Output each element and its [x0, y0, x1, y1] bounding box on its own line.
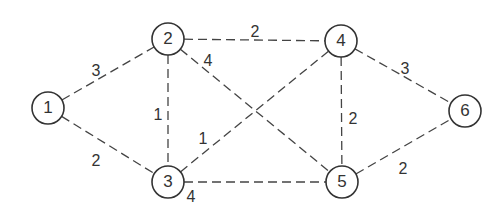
edges-layer — [62, 39, 452, 182]
node-label: 2 — [163, 29, 172, 48]
node-3: 3 — [152, 166, 184, 198]
node-label: 6 — [460, 101, 469, 120]
edge-weight-label: 4 — [204, 52, 213, 69]
edge-weight-label: 3 — [401, 60, 410, 77]
edge-weight-label: 2 — [92, 152, 101, 169]
node-label: 3 — [163, 172, 172, 191]
node-4: 4 — [325, 25, 357, 57]
nodes-layer: 123456 — [32, 23, 481, 198]
edge-weight-label: 1 — [199, 130, 208, 147]
edge-weight-label: 4 — [187, 188, 196, 205]
node-6: 6 — [449, 95, 481, 127]
node-label: 5 — [337, 172, 346, 191]
node-1: 1 — [32, 92, 64, 124]
edge-1-2 — [62, 47, 154, 100]
node-5: 5 — [326, 166, 358, 198]
edge-weight-label: 3 — [92, 62, 101, 79]
node-2: 2 — [152, 23, 184, 55]
edge-weight-label: 2 — [251, 23, 260, 40]
edge-4-5 — [341, 57, 342, 166]
edge-weight-label: 2 — [349, 110, 358, 127]
graph-canvas: 3212414232 123456 — [0, 0, 503, 208]
edge-weight-label: 2 — [399, 160, 408, 177]
node-label: 4 — [336, 31, 345, 50]
edge-1-3 — [62, 116, 155, 173]
graph-diagram: 3212414232 123456 — [0, 0, 503, 208]
edge-weight-label: 1 — [154, 106, 163, 123]
node-label: 1 — [43, 98, 52, 117]
